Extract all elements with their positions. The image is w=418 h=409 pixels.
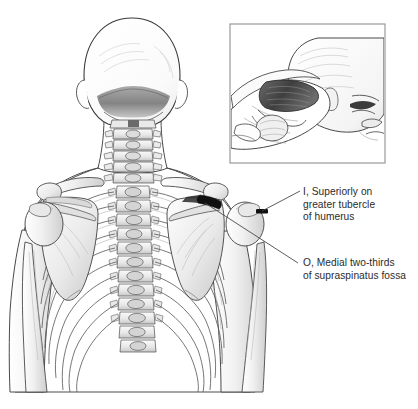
inset-lateral-view	[230, 24, 385, 163]
greater-tubercle-highlight	[256, 209, 268, 214]
anatomy-figure: I, Superiorly on greater tubercle of hum…	[0, 0, 418, 409]
label-origin: O, Medial two-thirds of supraspinatus fo…	[303, 257, 418, 282]
label-insertion: I, Superiorly on greater tubercle of hum…	[303, 186, 415, 224]
